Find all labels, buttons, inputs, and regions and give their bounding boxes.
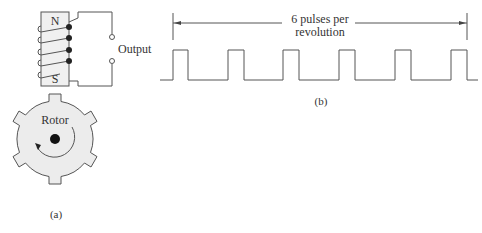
magnetic-pickup [38,12,115,86]
caption-a: (a) [50,208,63,221]
annotation-line1: 6 pulses per [291,12,348,26]
south-pole-label: S [52,72,59,86]
north-pole-label: N [51,14,60,28]
rotor [13,94,97,184]
output-terminal-bottom [110,59,115,64]
rotor-label: Rotor [41,113,68,127]
output-terminal-top [110,35,115,40]
pulse-waveform [160,50,478,80]
output-wire-bottom [69,64,112,86]
annotation-line2: revolution [295,25,344,39]
output-wire-top [69,12,112,34]
caption-b: (b) [315,95,328,108]
rotor-hub [50,134,60,144]
output-label: Output [118,42,152,56]
diagram-canvas: N S Output Rotor (a) 6 pulses per revolu… [0,0,482,233]
